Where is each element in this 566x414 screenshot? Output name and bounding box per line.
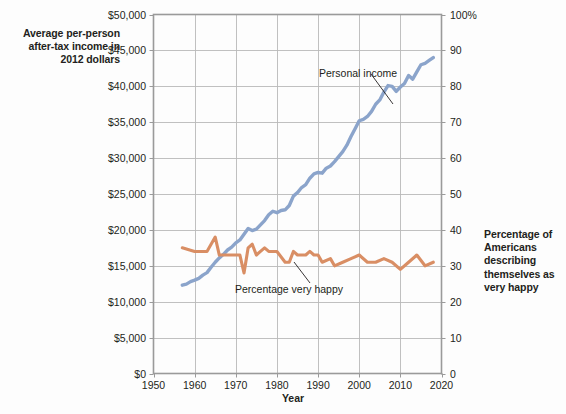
- tick-y-left-label: $30,000: [88, 152, 146, 164]
- tick-y-right-label: 80: [450, 80, 490, 92]
- series-label-very-happy: Percentage very happy: [235, 283, 343, 295]
- series-label-personal-income: Personal income: [319, 67, 397, 79]
- tick-y-left-label: $15,000: [88, 260, 146, 272]
- tick-y-left-label: $50,000: [88, 9, 146, 21]
- tick-y-right-label: 40: [450, 224, 490, 236]
- x-axis-title: Year: [0, 392, 566, 404]
- tick-y-left-label: $5,000: [88, 332, 146, 344]
- leader-line-very-happy: [294, 262, 310, 283]
- tick-y-right-label: 70: [450, 116, 490, 128]
- tick-y-left-label: $35,000: [88, 116, 146, 128]
- tick-y-left-label: $45,000: [88, 44, 146, 56]
- chart-figure: Average per-person after-tax income in 2…: [0, 0, 566, 414]
- x-axis-title-text: Year: [282, 392, 304, 404]
- series-lines: [182, 58, 433, 286]
- tick-y-right-label: 90: [450, 44, 490, 56]
- tick-y-left-label: $40,000: [88, 80, 146, 92]
- tick-y-right-label: 20: [450, 296, 490, 308]
- tick-y-right-label: 100%: [450, 9, 490, 21]
- tick-marks: [150, 16, 446, 378]
- tick-y-right-label: 0: [450, 368, 490, 380]
- tick-x-label: 2020: [418, 379, 466, 391]
- tick-y-left-label: $25,000: [88, 188, 146, 200]
- tick-y-right-label: 50: [450, 188, 490, 200]
- tick-y-left-label: $10,000: [88, 296, 146, 308]
- tick-y-left-label: $20,000: [88, 224, 146, 236]
- series-line-percentage-very-happy: [182, 237, 433, 273]
- tick-y-right-label: 60: [450, 152, 490, 164]
- plot-area: [0, 0, 566, 414]
- tick-y-left-label: $0: [88, 368, 146, 380]
- tick-y-right-label: 30: [450, 260, 490, 272]
- tick-y-right-label: 10: [450, 332, 490, 344]
